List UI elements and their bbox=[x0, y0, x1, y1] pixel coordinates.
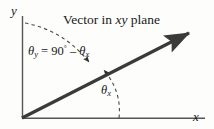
x-axis-label: x bbox=[193, 110, 199, 123]
theta-x-subscript: x bbox=[107, 88, 111, 98]
caption-italic-xy: xy bbox=[115, 12, 127, 27]
y-axis-label: y bbox=[11, 4, 17, 17]
theta-x-label: θx bbox=[101, 84, 111, 98]
caption: Vector in xy plane bbox=[63, 13, 160, 27]
angle-value: 90 bbox=[51, 44, 64, 58]
caption-suffix: plane bbox=[127, 12, 160, 27]
theta-x-subscript-in-equation: x bbox=[85, 49, 89, 59]
minus-sign: – bbox=[67, 44, 80, 58]
caption-prefix: Vector in bbox=[63, 12, 115, 27]
vector-xy-plane-diagram: y x Vector in xy plane θy = 90° – θx θx bbox=[0, 0, 214, 129]
theta-y-equation-label: θy = 90° – θx bbox=[28, 45, 89, 59]
equals-sign: = bbox=[38, 44, 51, 58]
